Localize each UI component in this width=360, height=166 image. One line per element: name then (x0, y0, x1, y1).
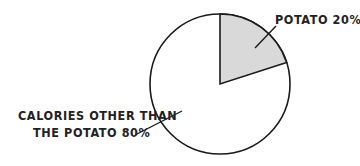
label-other-line1: CALORIES OTHER THAN (18, 108, 177, 123)
pie-chart: POTATO 20% CALORIES OTHER THAN THE POTAT… (0, 0, 360, 166)
label-potato: POTATO 20% (275, 12, 360, 27)
label-other-line2: THE POTATO 80% (33, 125, 150, 140)
